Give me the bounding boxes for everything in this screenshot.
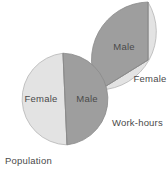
population-caption: Population (5, 155, 52, 166)
work-hours-label-male: Male (113, 41, 134, 52)
pie-chart-figure: Male Female Female Male Population Work-… (0, 0, 168, 177)
work-hours-pie: Male Female (91, 2, 166, 90)
pie-chart-canvas: Male Female Female Male Population Work-… (0, 0, 168, 177)
work-hours-caption: Work-hours (112, 117, 163, 128)
work-hours-label-female: Female (134, 73, 167, 84)
population-label-female: Female (25, 93, 58, 104)
population-pie: Female Male (22, 53, 108, 145)
population-label-male: Male (76, 93, 97, 104)
